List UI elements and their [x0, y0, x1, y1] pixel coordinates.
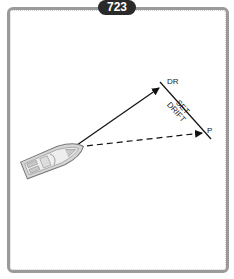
dr-label: DR: [167, 78, 179, 86]
dr-course-arrow: [77, 88, 159, 145]
p-label: P: [207, 127, 212, 135]
vector-diagram: [0, 0, 234, 279]
actual-track-arrow: [77, 133, 202, 147]
boat-icon: [20, 137, 87, 180]
